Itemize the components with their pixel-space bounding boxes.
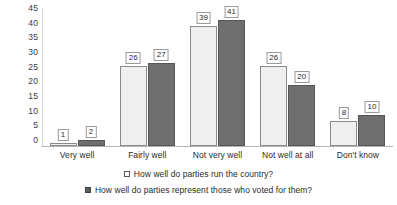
bar-group-dont-know: 8 10 [323,8,393,146]
filled-square-icon [85,187,91,193]
open-square-icon [124,171,130,177]
y-tick-30: 30 [8,48,38,57]
y-tick-15: 15 [8,92,38,101]
bar-dont-know-series-a: 8 [330,121,357,146]
y-tick-5: 5 [8,121,38,130]
bar-not-well-at-all-series-b: 20 [288,85,315,146]
bar-group-not-well-at-all: 26 20 [253,8,323,146]
x-tick-not-well-at-all: Not well at all [253,150,323,160]
bar-value-label: 20 [294,71,309,83]
x-tick-dont-know: Don't know [323,150,393,160]
bar-value-label: 8 [339,107,349,119]
legend-item-series-b: How well do parties represent those who … [0,182,397,198]
bar-value-label: 41 [224,6,239,18]
bar-value-label: 10 [364,101,379,113]
x-tick-not-very-well: Not very well [182,150,252,160]
x-axis-tick-labels: Very well Fairly well Not very well Not … [42,150,393,160]
x-axis-line [42,146,393,147]
bar-value-label: 27 [154,49,169,61]
bar-chart: 45 40 35 30 25 20 15 10 5 0 1 2 26 27 [0,0,397,205]
legend-item-series-a: How well do parties run the country? [0,166,397,182]
legend-label-series-b: How well do parties represent those who … [95,185,312,195]
x-tick-fairly-well: Fairly well [112,150,182,160]
y-tick-0: 0 [8,136,38,145]
bar-not-very-well-series-b: 41 [218,20,245,146]
chart-legend: How well do parties run the country? How… [0,166,397,198]
bar-value-label: 39 [196,12,211,24]
y-tick-45: 45 [8,4,38,13]
bar-value-label: 1 [58,129,68,141]
y-tick-35: 35 [8,33,38,42]
y-tick-20: 20 [8,77,38,86]
bar-value-label: 26 [126,52,141,64]
bar-group-very-well: 1 2 [42,8,112,146]
bar-not-very-well-series-a: 39 [190,26,217,146]
bar-group-fairly-well: 26 27 [112,8,182,146]
y-tick-40: 40 [8,19,38,28]
plot-area: 1 2 26 27 39 41 26 [42,8,393,146]
bar-value-label: 26 [266,52,281,64]
x-tick-very-well: Very well [42,150,112,160]
y-tick-25: 25 [8,63,38,72]
y-tick-10: 10 [8,107,38,116]
legend-label-series-a: How well do parties run the country? [134,169,273,179]
bar-not-well-at-all-series-a: 26 [260,66,287,146]
bar-value-label: 2 [86,126,96,138]
bar-group-not-very-well: 39 41 [182,8,252,146]
bar-dont-know-series-b: 10 [358,115,385,146]
bar-fairly-well-series-b: 27 [148,63,175,146]
bar-fairly-well-series-a: 26 [120,66,147,146]
